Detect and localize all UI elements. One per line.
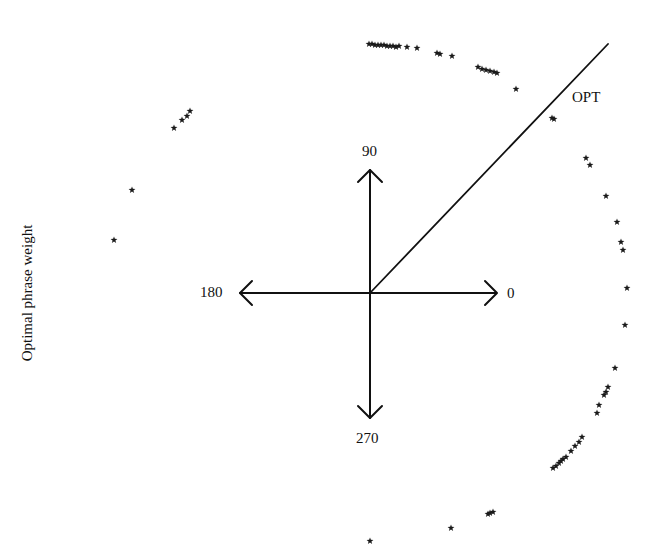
star-marker-icon bbox=[594, 409, 601, 416]
star-marker-icon bbox=[171, 124, 178, 131]
axes bbox=[240, 44, 608, 418]
star-marker-icon bbox=[404, 43, 411, 50]
star-marker-icon bbox=[596, 401, 603, 408]
star-marker-icon bbox=[111, 236, 118, 243]
star-marker-icon bbox=[603, 192, 610, 199]
star-marker-icon bbox=[487, 67, 494, 74]
axis-label-0: 0 bbox=[507, 285, 515, 302]
star-marker-icon bbox=[618, 238, 625, 245]
star-marker-icon bbox=[587, 161, 594, 168]
star-marker-icon bbox=[184, 112, 191, 119]
polar-diagram: Optimal phrase weight 90 180 0 270 OPT bbox=[0, 0, 658, 558]
star-marker-icon bbox=[614, 218, 621, 225]
star-marker-icon bbox=[449, 52, 456, 59]
star-marker-icon bbox=[448, 524, 455, 531]
star-marker-icon bbox=[483, 66, 490, 73]
star-marker-icon bbox=[624, 284, 631, 291]
star-marker-icon bbox=[367, 537, 374, 544]
axis-label-90: 90 bbox=[362, 143, 377, 160]
opt-line bbox=[370, 44, 608, 293]
star-marker-icon bbox=[129, 186, 136, 193]
star-marker-icon bbox=[179, 116, 186, 123]
star-marker-icon bbox=[187, 107, 194, 114]
star-marker-icon bbox=[620, 246, 627, 253]
star-marker-icon bbox=[579, 433, 586, 440]
star-marker-icon bbox=[513, 85, 520, 92]
star-marker-icon bbox=[612, 364, 619, 371]
axis-label-270: 270 bbox=[356, 430, 379, 447]
star-marker-icon bbox=[414, 44, 421, 51]
opt-line-label: OPT bbox=[572, 89, 600, 106]
axis-label-180: 180 bbox=[200, 284, 223, 301]
star-marker-icon bbox=[583, 154, 590, 161]
star-marker-icon bbox=[622, 321, 629, 328]
y-axis-label: Optimal phrase weight bbox=[19, 225, 36, 362]
plot-canvas bbox=[0, 0, 658, 558]
star-marker-icon bbox=[605, 383, 612, 390]
star-marker-icon bbox=[576, 438, 583, 445]
